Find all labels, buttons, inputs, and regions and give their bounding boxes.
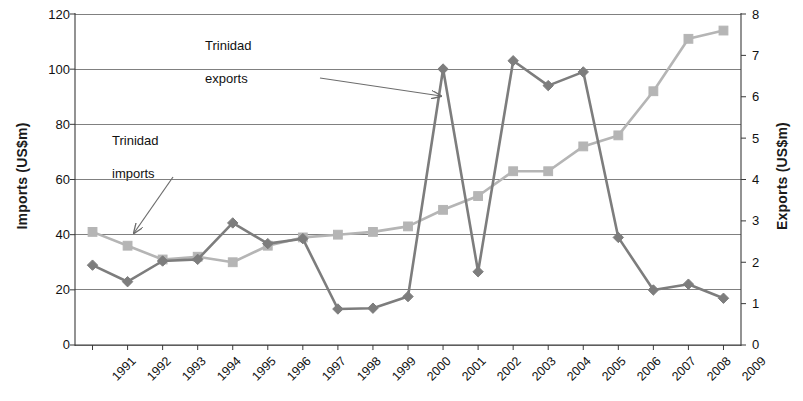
data-point (578, 67, 588, 77)
data-point (719, 26, 728, 35)
data-point (333, 304, 343, 314)
data-point (368, 303, 378, 313)
data-point (404, 222, 413, 231)
data-point (228, 258, 237, 267)
data-point (579, 142, 588, 151)
data-point (509, 167, 518, 176)
data-point (544, 167, 553, 176)
data-point (369, 228, 378, 237)
data-point (474, 192, 483, 201)
data-point (473, 267, 483, 277)
series-trinidad-exports (87, 56, 728, 315)
data-point (123, 241, 132, 250)
data-point (718, 293, 728, 303)
annotation-arrows (134, 78, 441, 233)
data-point (684, 34, 693, 43)
data-point (87, 260, 97, 270)
data-point (333, 230, 342, 239)
data-point (614, 131, 623, 140)
trinidad-imports-annotation-arrow (134, 177, 173, 233)
data-point (649, 87, 658, 96)
trinidad-exports-annotation-arrow (320, 78, 441, 96)
data-point (683, 279, 693, 289)
data-point (88, 228, 97, 237)
data-point (403, 291, 413, 301)
series-trinidad-imports (88, 26, 728, 267)
chart-container: Imports (US$m) Exports (US$m) 0 20 40 60… (0, 0, 803, 401)
plot-area (0, 0, 803, 401)
data-point (439, 205, 448, 214)
data-point (438, 64, 448, 74)
